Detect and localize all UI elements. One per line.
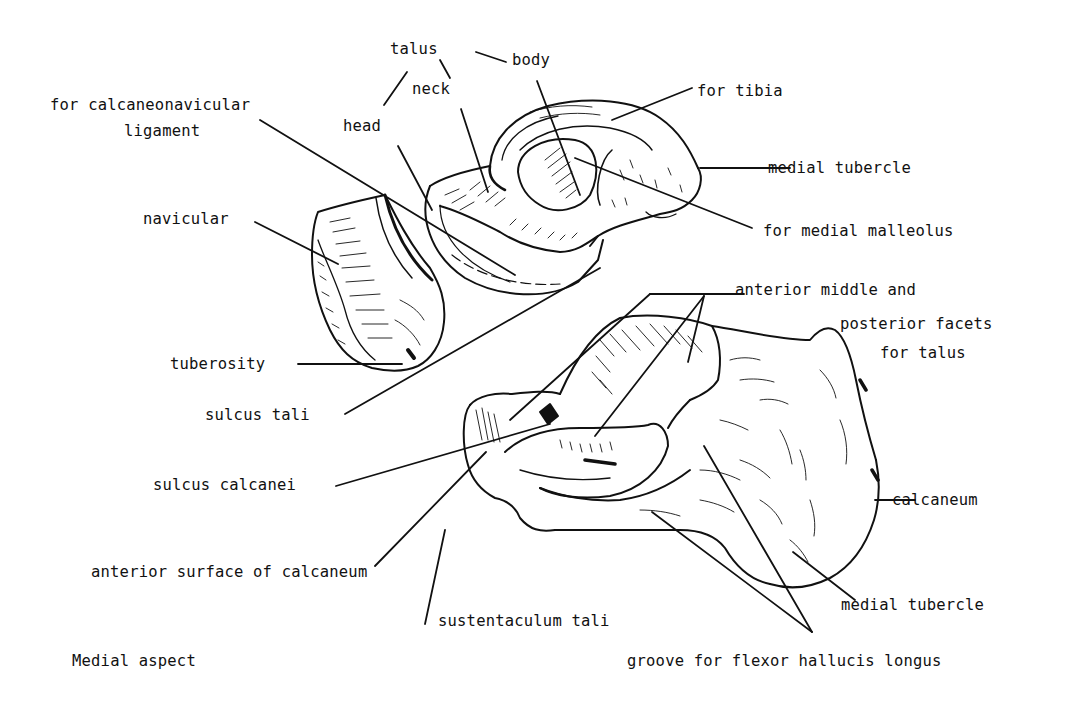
label-groove-for-flexor-hallucis-longus: groove for flexor hallucis longus — [627, 652, 942, 670]
label-sustentaculum-tali: sustentaculum tali — [438, 612, 610, 630]
label-medial-tubercle-talus: medial tubercle — [768, 159, 911, 177]
label-for-tibia: for tibia — [697, 82, 783, 100]
label-for-medial-malleolus: for medial malleolus — [763, 222, 954, 240]
label-facets-line2: posterior facets — [840, 315, 993, 333]
leader-lines — [255, 52, 915, 632]
label-sulcus-tali: sulcus tali — [205, 406, 310, 424]
label-facets-line3: for talus — [880, 344, 966, 362]
label-medial-tubercle-calcaneum: medial tubercle — [841, 596, 984, 614]
label-navicular: navicular — [143, 210, 229, 228]
anatomy-figure: talus body neck head for tibia for calca… — [0, 0, 1080, 724]
label-for-calcaneonavicular: for calcaneonavicular — [50, 96, 250, 114]
figure-caption: Medial aspect — [72, 652, 196, 670]
label-head: head — [343, 117, 381, 135]
navicular-drawing — [312, 195, 444, 371]
calcaneum-drawing — [464, 316, 879, 588]
label-neck: neck — [412, 80, 450, 98]
label-sulcus-calcanei: sulcus calcanei — [153, 476, 296, 494]
label-facets-line1: anterior middle and — [735, 281, 916, 299]
label-body: body — [512, 51, 550, 69]
label-ligament: ligament — [124, 122, 200, 140]
label-talus: talus — [390, 40, 438, 58]
label-calcaneum: calcaneum — [892, 491, 978, 509]
label-tuberosity: tuberosity — [170, 355, 265, 373]
label-anterior-surface-of-calcaneum: anterior surface of calcaneum — [91, 563, 367, 581]
